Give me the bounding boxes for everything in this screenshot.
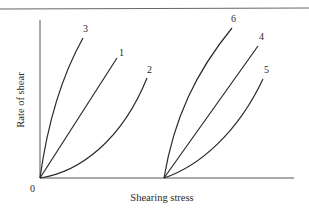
curve-label-6: 6 [231,13,236,24]
x-axis-title: Shearing stress [130,192,193,203]
curve-label-4: 4 [259,31,264,42]
curve-6 [164,28,232,178]
flow-curve-diagram: 3 1 2 6 4 5 0 Shearing stress Rate of sh… [0,0,309,209]
curve-label-3: 3 [83,23,88,34]
origin-label: 0 [30,183,35,194]
curve-2 [40,78,147,178]
curve-label-5: 5 [264,64,269,75]
curve-5 [164,79,263,178]
curve-label-2: 2 [147,64,152,75]
y-axis-title: Rate of shear [15,72,26,128]
curve-label-1: 1 [119,47,124,58]
top-rule [0,8,309,9]
curve-3 [40,38,83,178]
